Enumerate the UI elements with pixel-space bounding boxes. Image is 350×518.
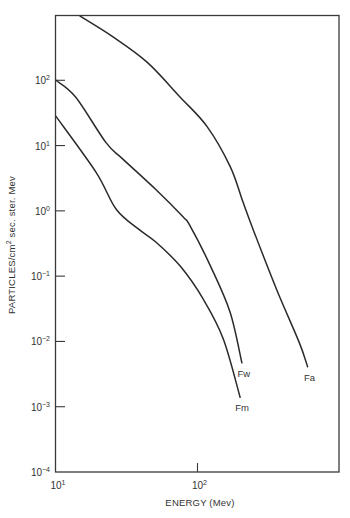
- y-tick-label: 10−3: [31, 401, 50, 413]
- x-tick-label: 101: [50, 479, 65, 491]
- plot-frame: [56, 16, 340, 473]
- series-labels: FaFwFm: [235, 368, 316, 413]
- series-label-fm: Fm: [235, 402, 249, 413]
- x-axis-title: ENERGY (Mev): [165, 497, 234, 508]
- y-tick-label: 10−2: [31, 335, 50, 347]
- series-label-fw: Fw: [238, 368, 251, 379]
- data-curves: [56, 16, 308, 397]
- x-axis-ticks: 101102: [50, 463, 207, 491]
- x-tick-label: 102: [192, 479, 207, 491]
- curve-fm: [56, 116, 240, 397]
- y-tick-label: 10−4: [31, 466, 50, 478]
- y-tick-label: 100: [35, 205, 50, 217]
- y-tick-label: 102: [35, 74, 50, 86]
- y-tick-label: 101: [35, 140, 50, 152]
- spectrum-chart: 10210110010−110−210−310−4 101102 FaFwFm …: [0, 0, 350, 518]
- y-axis-ticks: 10210110010−110−210−310−4: [31, 74, 65, 478]
- y-tick-label: 10−1: [31, 270, 50, 282]
- curve-fa: [80, 16, 308, 367]
- series-label-fa: Fa: [304, 372, 316, 383]
- curve-fw: [56, 80, 242, 363]
- y-axis-title: PARTICLES/cm2 sec. ster. Mev: [5, 176, 17, 314]
